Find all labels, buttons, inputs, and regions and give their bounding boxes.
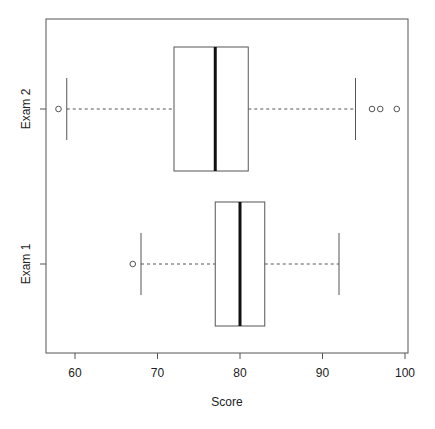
box-exam-1: [130, 202, 339, 326]
y-tick-label: Exam 1: [19, 243, 33, 284]
iqr-box: [174, 47, 248, 171]
outlier-point: [369, 106, 375, 112]
x-axis-label: Score: [211, 395, 243, 409]
box-exam-2: [56, 47, 400, 171]
x-tick-label: 90: [316, 366, 330, 380]
x-tick-label: 80: [233, 366, 247, 380]
outlier-point: [56, 106, 62, 112]
box-group: [56, 47, 400, 326]
x-axis: 60708090100: [68, 353, 415, 380]
boxplot-chart: 60708090100 Exam 1Exam 2 Score: [0, 0, 435, 429]
outlier-point: [377, 106, 383, 112]
outlier-point: [394, 106, 400, 112]
outlier-point: [130, 261, 136, 267]
x-tick-label: 100: [395, 366, 415, 380]
x-tick-label: 70: [151, 366, 165, 380]
y-axis: Exam 1Exam 2: [19, 88, 46, 284]
y-tick-label: Exam 2: [19, 88, 33, 129]
x-tick-label: 60: [68, 366, 82, 380]
